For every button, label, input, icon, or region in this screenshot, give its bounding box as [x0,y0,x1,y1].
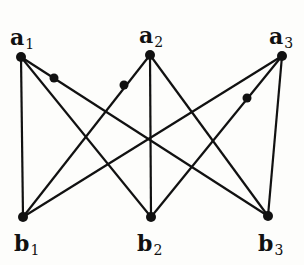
edge-a2-b2 [150,55,151,217]
label-b1: b1 [14,232,39,257]
edge-a2-b3 [150,55,268,216]
node-b3 [263,211,273,221]
subdivision-node-2 [120,81,129,90]
label-a2: a2 [139,24,163,49]
node-b1 [18,212,28,222]
edge-a3-b1 [23,56,282,217]
subdivision-node-1 [50,74,59,83]
label-a3: a3 [269,25,293,50]
graph-diagram: a1a2a3b1b2b3 [0,0,304,265]
node-a1 [16,52,26,62]
subdivision-node-3 [243,94,252,103]
edge-a1-b3 [21,57,268,216]
edge-a3-b2 [151,56,282,217]
label-b3: b3 [258,232,283,257]
label-b2: b2 [137,232,162,257]
label-a1: a1 [10,26,34,51]
node-b2 [146,212,156,222]
edge-a3-b3 [268,56,282,216]
node-a3 [277,51,287,61]
edge-a1-b1 [21,57,23,217]
node-a2 [145,50,155,60]
